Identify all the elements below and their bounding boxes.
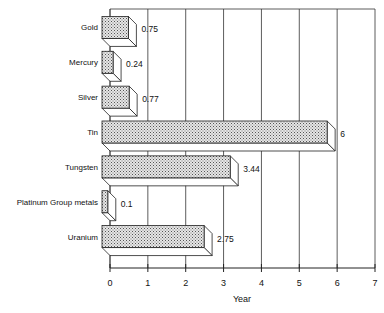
value-label: 3.44: [243, 164, 260, 174]
x-tick-label: 2: [183, 278, 188, 288]
chart-canvas: Gold0.75Mercury0.24Silver0.77Tin6Tungste…: [0, 0, 384, 313]
x-tick-label: 7: [372, 278, 377, 288]
bar-gold: Gold0.75: [81, 16, 158, 46]
x-axis-label: Year: [233, 294, 251, 304]
value-label: 6: [340, 129, 345, 139]
bar-front-face: [102, 226, 204, 248]
bar-front-face: [102, 156, 230, 178]
category-label: Tin: [87, 128, 98, 137]
bar-front-face: [102, 191, 108, 213]
category-label: Platinum Group metals: [17, 198, 98, 207]
bar-platinum-group-metals: Platinum Group metals0.1: [17, 191, 133, 221]
bar-bottom-face: [102, 248, 212, 256]
bar-uranium: Uranium2.75: [68, 226, 234, 256]
bar-tungsten: Tungsten3.44: [65, 156, 260, 186]
x-tick-label: 3: [221, 278, 226, 288]
value-label: 0.77: [142, 94, 159, 104]
category-label: Silver: [78, 93, 98, 102]
x-axis: 01234567: [107, 264, 377, 288]
bar-mercury: Mercury0.24: [69, 51, 143, 81]
value-label: 2.75: [217, 234, 234, 244]
bar-tin: Tin6: [87, 121, 345, 151]
x-tick-label: 4: [259, 278, 264, 288]
value-label: 0.1: [121, 199, 133, 209]
category-label: Uranium: [68, 233, 99, 242]
value-label: 0.75: [141, 24, 158, 34]
bar-bottom-face: [102, 143, 335, 151]
x-tick-label: 0: [107, 278, 112, 288]
x-tick-label: 5: [297, 278, 302, 288]
category-label: Gold: [81, 23, 98, 32]
bar-bottom-face: [102, 178, 238, 186]
bar-silver: Silver0.77: [78, 86, 159, 116]
category-label: Tungsten: [65, 163, 98, 172]
x-tick-label: 1: [145, 278, 150, 288]
x-tick-label: 6: [335, 278, 340, 288]
bar-chart: Gold0.75Mercury0.24Silver0.77Tin6Tungste…: [0, 0, 384, 313]
bar-front-face: [102, 121, 327, 143]
bar-front-face: [102, 86, 129, 108]
bar-front-face: [102, 16, 128, 38]
bars: Gold0.75Mercury0.24Silver0.77Tin6Tungste…: [17, 16, 346, 255]
value-label: 0.24: [126, 59, 143, 69]
category-label: Mercury: [69, 58, 98, 67]
bar-front-face: [102, 51, 113, 73]
